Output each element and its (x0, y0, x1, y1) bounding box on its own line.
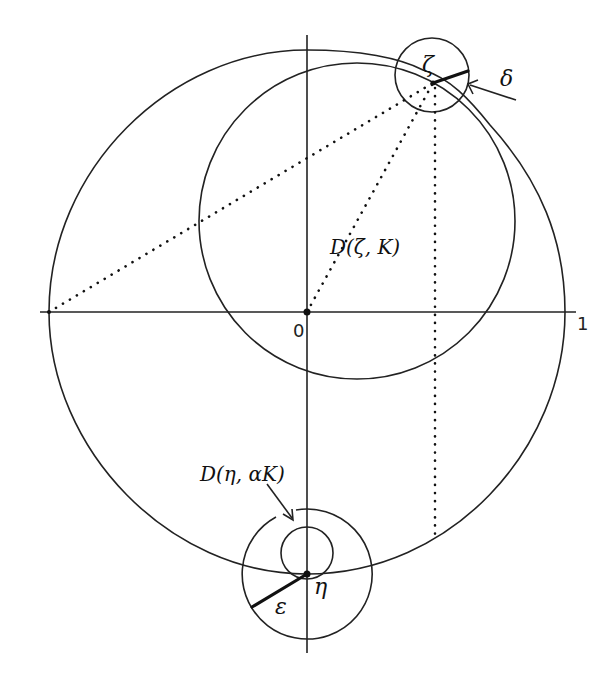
left-axis-point (47, 310, 51, 314)
eta-label: η (314, 574, 327, 599)
delta-label: δ (500, 66, 513, 91)
disk-eta-label: D(η, αK) (199, 462, 285, 486)
epsilon-label: ε (275, 594, 287, 619)
disk-zeta-label: D(ζ, K) (329, 235, 400, 259)
disk-D-zeta-K (199, 63, 515, 379)
dotted-origin-to-zeta (307, 83, 433, 312)
diagram-canvas: 0 1 ζ δ D(ζ, K) D(η, αK) η ε (0, 0, 608, 683)
zeta-label: ζ (422, 52, 436, 77)
disk-eta-arrow-shaft (267, 484, 292, 518)
dotted-left-to-zeta (49, 83, 433, 312)
origin-label: 0 (293, 320, 304, 341)
zeta-point (431, 81, 436, 86)
unit-label: 1 (577, 313, 588, 334)
disk-eta-arrow-head (283, 509, 293, 520)
origin-point (304, 309, 311, 316)
